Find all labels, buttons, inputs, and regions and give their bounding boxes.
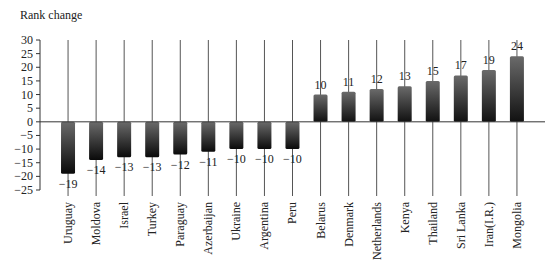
bar-netherlands <box>370 89 384 122</box>
x-tick-label: Mongolia <box>510 201 524 248</box>
bar-uruguay <box>61 122 75 174</box>
bar-thailand <box>426 81 440 122</box>
data-label: 15 <box>427 64 439 78</box>
y-tick-label: 0 <box>27 115 33 129</box>
bar-chart: 302520151050−5−10−15−20−25 −19−14−13−13−… <box>0 0 557 263</box>
y-tick-label: 20 <box>21 60 33 74</box>
x-tick-label: Netherlands <box>370 202 384 260</box>
y-tick-label: −25 <box>14 183 33 197</box>
data-label: 11 <box>343 75 355 89</box>
data-label: −13 <box>115 160 134 174</box>
data-label: −10 <box>227 152 246 166</box>
bar-moldova <box>89 122 103 160</box>
data-label: 24 <box>511 39 523 53</box>
y-tick-label: −10 <box>14 142 33 156</box>
x-tick-label: Argentina <box>257 201 271 249</box>
x-tick-label: Sri Lanka <box>454 201 468 249</box>
data-label: 10 <box>315 78 327 92</box>
y-tick-label: −15 <box>14 156 33 170</box>
data-label: −10 <box>255 152 274 166</box>
x-tick-label: Kenya <box>398 201 412 233</box>
data-label: −12 <box>171 158 190 172</box>
x-tick-label: Moldova <box>89 201 103 245</box>
data-label: −19 <box>59 177 78 191</box>
y-tick-label: 15 <box>21 74 33 88</box>
x-tick-label: Israel <box>117 201 131 228</box>
y-tick-label: 5 <box>27 101 33 115</box>
x-tick-label: Denmark <box>342 202 356 247</box>
x-tick-label: Paraguay <box>173 202 187 247</box>
data-label: −14 <box>87 163 106 177</box>
bars: −19−14−13−13−12−11−10−10−101011121315171… <box>59 39 524 190</box>
bar-argentina <box>257 122 271 149</box>
x-axis-labels: UruguayMoldovaIsraelTurkeyParaguayAzerba… <box>61 201 524 260</box>
x-tick-label: Iran(I.R.) <box>482 202 496 247</box>
bar-ukraine <box>229 122 243 149</box>
data-label: 19 <box>483 53 495 67</box>
category-separators <box>68 40 517 196</box>
y-axis: 302520151050−5−10−15−20−25 <box>14 33 40 197</box>
data-label: −11 <box>199 155 217 169</box>
x-tick-label: Belarus <box>314 202 328 239</box>
y-tick-label: 25 <box>21 47 33 61</box>
bar-paraguay <box>173 122 187 155</box>
bar-azerbaijan <box>201 122 215 152</box>
y-tick-label: 10 <box>21 88 33 102</box>
x-tick-label: Ukraine <box>229 202 243 241</box>
bar-turkey <box>145 122 159 157</box>
data-label: 17 <box>455 58 467 72</box>
data-label: 12 <box>371 72 383 86</box>
data-label: −10 <box>283 152 302 166</box>
bar-mongolia <box>510 56 524 121</box>
x-tick-label: Peru <box>285 202 299 224</box>
data-label: −13 <box>143 160 162 174</box>
y-tick-label: −20 <box>14 169 33 183</box>
bar-israel <box>117 122 131 157</box>
bar-belarus <box>314 95 328 122</box>
bar-iran-i-r- <box>482 70 496 122</box>
x-tick-label: Thailand <box>426 202 440 245</box>
data-label: 13 <box>399 69 411 83</box>
x-tick-label: Uruguay <box>61 202 75 244</box>
bar-peru <box>285 122 299 149</box>
y-tick-label: 30 <box>21 33 33 47</box>
x-tick-label: Turkey <box>145 202 159 236</box>
x-tick-label: Azerbaijan <box>201 202 215 255</box>
bar-kenya <box>398 86 412 121</box>
bar-denmark <box>342 92 356 122</box>
bar-sri-lanka <box>454 75 468 121</box>
y-tick-label: −5 <box>20 128 33 142</box>
